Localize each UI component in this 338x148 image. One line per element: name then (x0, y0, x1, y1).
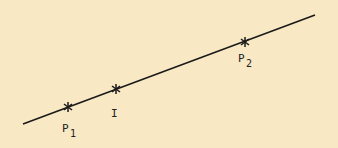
label-p1: P (62, 122, 69, 135)
diagram-canvas: P 1 I P 2 (0, 0, 338, 148)
label-p1-subscript: 1 (70, 128, 76, 139)
label-p2-subscript: 2 (246, 58, 252, 69)
label-i: I (111, 107, 118, 120)
label-p2: P (238, 52, 245, 65)
